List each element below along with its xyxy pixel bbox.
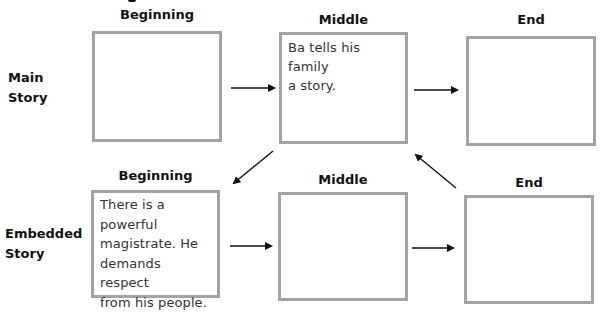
arrow-up-left-icon [416,155,456,188]
arrow-down-left-icon [234,151,273,183]
